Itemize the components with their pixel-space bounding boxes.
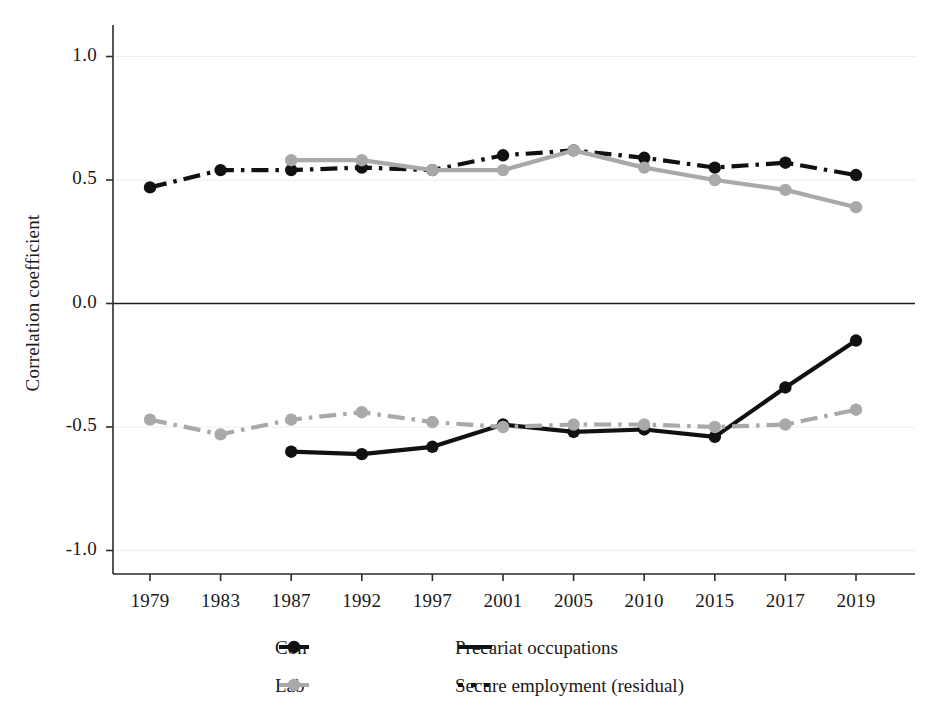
x-tick-label-8: 2015	[680, 590, 750, 612]
x-tick-label-10: 2019	[821, 590, 891, 612]
series-1-point-4	[567, 144, 579, 156]
series-2-point-1	[356, 448, 368, 460]
series-1-point-6	[709, 174, 721, 186]
x-tick-label-9: 2017	[750, 590, 820, 612]
legend-entry-2[interactable]: Precariat occupations	[455, 637, 618, 659]
dash-dot-line-icon	[455, 675, 497, 695]
series-1-point-7	[779, 184, 791, 196]
series-3-point-2	[285, 413, 297, 425]
series-3-point-9	[779, 418, 791, 430]
series-3-point-1	[214, 428, 226, 440]
series-2-point-7	[779, 381, 791, 393]
series-1-point-5	[638, 161, 650, 173]
series-0-point-10	[850, 169, 862, 181]
series-0-point-1	[214, 164, 226, 176]
series-line-1	[291, 150, 856, 207]
series-0-point-0	[144, 181, 156, 193]
y-tick-label-2: 0.0	[27, 291, 97, 313]
circle-marker-icon	[275, 675, 317, 695]
legend-marker	[288, 641, 300, 653]
y-tick-label-4: -1.0	[27, 538, 97, 560]
legend-entry-3[interactable]: Secure employment (residual)	[455, 675, 684, 697]
series-3-point-5	[497, 421, 509, 433]
y-tick-label-3: -0.5	[27, 414, 97, 436]
series-2-point-2	[426, 441, 438, 453]
x-tick-label-3: 1992	[327, 590, 397, 612]
legend-marker	[288, 679, 300, 691]
correlation-coefficient-line-chart: Correlation coefficient 1.00.50.0-0.5-1.…	[0, 0, 932, 724]
legend-entry-1[interactable]: Lab	[275, 675, 305, 697]
series-2-point-8	[850, 334, 862, 346]
x-tick-label-7: 2010	[609, 590, 679, 612]
legend-entry-0[interactable]: Con	[275, 637, 307, 659]
series-3-point-7	[638, 418, 650, 430]
series-1-point-2	[426, 164, 438, 176]
series-3-point-0	[144, 413, 156, 425]
series-3-point-4	[426, 416, 438, 428]
series-0-point-9	[779, 157, 791, 169]
series-1-point-8	[850, 201, 862, 213]
x-tick-label-0: 1979	[115, 590, 185, 612]
x-tick-label-1: 1983	[186, 590, 256, 612]
x-tick-label-5: 2001	[468, 590, 538, 612]
series-1-point-1	[356, 154, 368, 166]
x-tick-label-2: 1987	[256, 590, 326, 612]
y-tick-label-0: 1.0	[27, 44, 97, 66]
x-tick-label-6: 2005	[539, 590, 609, 612]
solid-line-icon	[455, 637, 497, 657]
series-1-point-3	[497, 164, 509, 176]
series-3-point-8	[709, 421, 721, 433]
x-tick-label-4: 1997	[397, 590, 467, 612]
series-1-point-0	[285, 154, 297, 166]
series-0-point-8	[709, 161, 721, 173]
series-2-point-0	[285, 446, 297, 458]
circle-marker-icon	[275, 637, 317, 657]
series-0-point-5	[497, 149, 509, 161]
series-3-point-10	[850, 404, 862, 416]
series-3-point-6	[567, 418, 579, 430]
plot-area	[0, 0, 932, 724]
y-tick-label-1: 0.5	[27, 167, 97, 189]
series-3-point-3	[356, 406, 368, 418]
